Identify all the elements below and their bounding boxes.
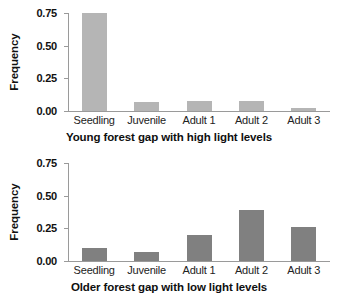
x-tick-label-juvenile: Juvenile	[120, 264, 172, 276]
bar-juvenile	[134, 252, 159, 261]
bar-adult-3	[291, 108, 316, 111]
y-tick-mark: 0.00	[64, 261, 68, 262]
x-category-labels-bottom: Seedling Juvenile Adult 1 Adult 2 Adult …	[68, 264, 330, 280]
y-axis-title: Frequency	[8, 172, 20, 252]
x-axis-line	[68, 261, 330, 262]
bar-adult-1	[187, 235, 212, 261]
y-tick-label: 0.00	[36, 105, 57, 117]
x-axis-line	[68, 111, 330, 112]
y-tick-label: 0.50	[36, 40, 57, 52]
y-tick-label: 0.00	[36, 255, 57, 267]
bar-adult-1	[187, 101, 212, 111]
bar-seedling	[82, 248, 107, 261]
x-tick-label-adult-3: Adult 3	[278, 264, 330, 276]
x-tick-label-seedling: Seedling	[68, 114, 120, 126]
panel-young-forest-gap: Frequency 0.75 0.50 0.25 0.00	[0, 0, 338, 149]
bar-adult-2	[239, 101, 264, 111]
panel-subtitle-bottom: Older forest gap with low light levels	[0, 281, 338, 293]
plot-area-top: 0.75 0.50 0.25 0.00 Seedling Juvenile	[68, 13, 330, 111]
bar-juvenile	[134, 102, 159, 111]
figure-two-panel-bar-charts: Frequency 0.75 0.50 0.25 0.00	[0, 0, 338, 299]
x-tick-label-juvenile: Juvenile	[120, 114, 172, 126]
y-tick-label: 0.50	[36, 190, 57, 202]
bar-adult-3	[291, 227, 316, 261]
bar-seedling	[82, 13, 107, 111]
x-category-labels-top: Seedling Juvenile Adult 1 Adult 2 Adult …	[68, 114, 330, 130]
panel-subtitle-top: Young forest gap with high light levels	[0, 131, 338, 143]
bar-adult-2	[239, 210, 264, 261]
x-tick-label-adult-1: Adult 1	[173, 264, 225, 276]
bar-series-bottom	[68, 163, 330, 261]
x-tick-label-seedling: Seedling	[68, 264, 120, 276]
y-tick-label: 0.75	[36, 7, 57, 19]
y-axis-title: Frequency	[8, 22, 20, 102]
x-tick-label-adult-1: Adult 1	[173, 114, 225, 126]
bar-series-top	[68, 13, 330, 111]
y-tick-label: 0.75	[36, 157, 57, 169]
y-tick-mark: 0.00	[64, 111, 68, 112]
x-tick-label-adult-3: Adult 3	[278, 114, 330, 126]
x-tick-label-adult-2: Adult 2	[225, 114, 277, 126]
plot-area-bottom: 0.75 0.50 0.25 0.00 Seedling Juvenile	[68, 163, 330, 261]
y-tick-label: 0.25	[36, 222, 57, 234]
panel-older-forest-gap: Frequency 0.75 0.50 0.25 0.00	[0, 150, 338, 299]
x-tick-label-adult-2: Adult 2	[225, 264, 277, 276]
y-tick-label: 0.25	[36, 72, 57, 84]
